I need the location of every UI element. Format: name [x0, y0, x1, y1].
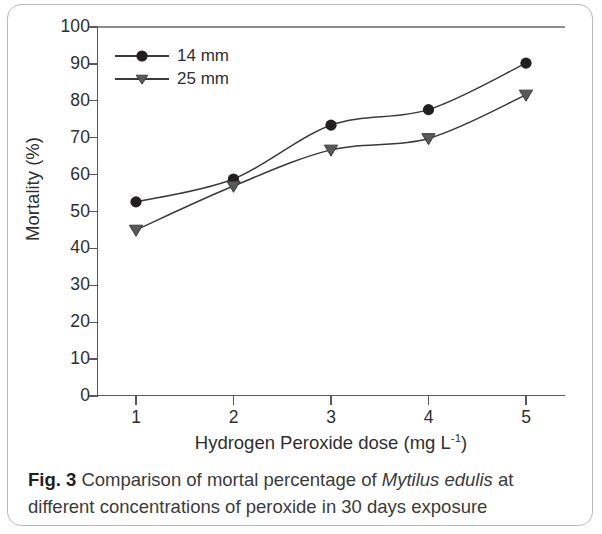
y-axis-tick	[89, 100, 98, 101]
legend-label-series-2: 25 mm	[171, 69, 229, 89]
caption-species-name: Mytilus edulis	[382, 469, 493, 490]
legend-key-circle-icon	[113, 46, 171, 66]
y-axis-tick	[89, 248, 98, 249]
data-point-marker-triangle	[227, 181, 240, 192]
y-axis-tick	[89, 395, 98, 396]
legend-item-series-2: 25 mm	[113, 67, 263, 90]
y-axis-tick	[89, 358, 98, 359]
legend-key-triangle-icon	[113, 69, 171, 89]
data-point-marker-circle	[423, 104, 434, 115]
series-line-2	[136, 95, 526, 230]
series-plot	[0, 0, 602, 462]
y-axis-tick	[89, 285, 98, 286]
data-point-marker-triangle	[519, 90, 532, 101]
data-point-marker-triangle	[129, 225, 142, 236]
data-point-marker-circle	[520, 58, 531, 69]
figure-number: Fig. 3	[28, 469, 76, 490]
data-point-marker-circle	[130, 196, 141, 207]
data-point-marker-circle	[325, 120, 336, 131]
y-axis-tick	[89, 174, 98, 175]
y-axis-tick	[89, 63, 98, 64]
legend-label-series-1: 14 mm	[171, 46, 229, 66]
legend: 14 mm 25 mm	[113, 44, 263, 90]
chart-area: 0102030405060708090100 Mortality (%) 123…	[0, 0, 602, 462]
y-axis-tick	[89, 322, 98, 323]
caption-text-1: Comparison of mortal percentage of	[76, 469, 381, 490]
figure-caption: Fig. 3 Comparison of mortal percentage o…	[28, 466, 574, 520]
legend-item-series-1: 14 mm	[113, 44, 263, 67]
y-axis-tick	[89, 211, 98, 212]
y-axis-tick	[89, 26, 98, 27]
y-axis-tick	[89, 137, 98, 138]
